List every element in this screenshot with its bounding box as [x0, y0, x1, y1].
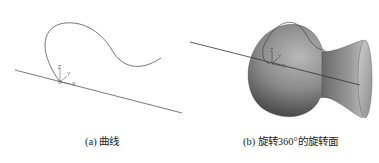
ucs-axis-icon: Z Y X: [58, 64, 76, 87]
profile-curve: [45, 23, 161, 82]
svg-text:X: X: [72, 81, 76, 87]
surface-of-revolution: [248, 22, 372, 118]
svg-text:Z: Z: [58, 64, 61, 70]
svg-text:Z: Z: [270, 47, 273, 53]
caption-surface: (b) 旋转360°的旋转面: [243, 133, 338, 148]
svg-text:Y: Y: [67, 71, 71, 77]
rotation-axis-line: [15, 70, 182, 113]
caption-curve: (a) 曲线: [85, 133, 119, 148]
